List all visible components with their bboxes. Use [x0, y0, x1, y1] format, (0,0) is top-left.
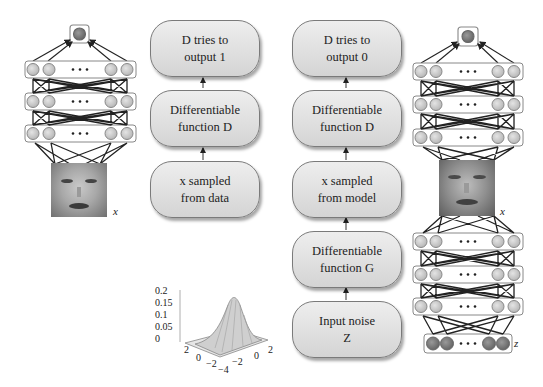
- box-label: Input noise Z: [319, 313, 375, 347]
- z-tick: 0.2: [155, 285, 168, 296]
- x-tick: −4: [218, 364, 229, 375]
- box-label: x sampled from model: [318, 173, 377, 207]
- box-function-g: Differentiable function G: [292, 231, 402, 288]
- real-x-label: x: [113, 205, 118, 217]
- x-tick: 2: [184, 344, 189, 355]
- box-label: D tries to output 0: [324, 32, 371, 66]
- z-tick: 0.15: [155, 297, 173, 308]
- box-label: D tries to output 1: [182, 32, 229, 66]
- y-tick: −2: [232, 356, 243, 367]
- y-tick: 2: [268, 344, 273, 355]
- box-label: Differentiable function D: [170, 102, 240, 136]
- box-x-from-data: x sampled from data: [150, 161, 260, 218]
- y-tick: 0: [254, 350, 259, 361]
- generated-face-image: [439, 160, 495, 216]
- z-tick: 0.05: [155, 321, 173, 332]
- x-tick: 0: [196, 352, 201, 363]
- real-face-image: [51, 163, 107, 217]
- noise-z-label: z: [514, 337, 518, 349]
- box-label: x sampled from data: [179, 173, 230, 207]
- box-d-output-1: D tries to output 1: [150, 20, 260, 77]
- generated-x-label: x: [500, 205, 505, 217]
- z-tick: 0: [155, 333, 160, 344]
- x-tick: −2: [206, 358, 217, 369]
- box-x-from-model: x sampled from model: [292, 161, 402, 218]
- left-discriminator-network: [25, 25, 136, 164]
- box-label: Differentiable function G: [312, 243, 382, 277]
- z-tick: 0.1: [155, 309, 168, 320]
- box-d-output-0: D tries to output 0: [292, 20, 402, 77]
- box-input-noise: Input noise Z: [292, 301, 402, 358]
- box-label: Differentiable function D: [312, 102, 382, 136]
- gaussian-surface-plot: [180, 290, 268, 357]
- box-real-function-d: Differentiable function D: [150, 90, 260, 147]
- box-fake-function-d: Differentiable function D: [292, 90, 402, 147]
